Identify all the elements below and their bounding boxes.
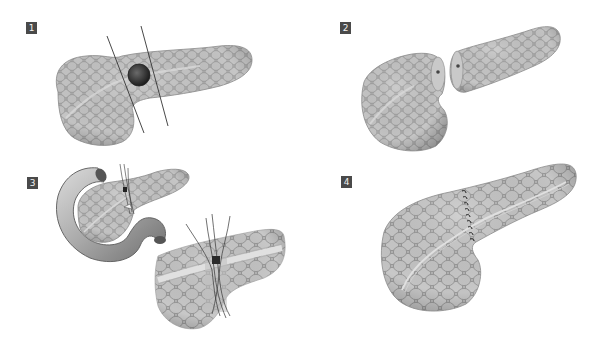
step-badge-1: 1 xyxy=(26,22,37,34)
step-badge-2: 2 xyxy=(340,22,351,34)
tail-duct-opening xyxy=(456,64,460,68)
lesion xyxy=(128,64,150,86)
panel-2-resected-segments xyxy=(362,27,561,151)
magnified-anastomosis-inset xyxy=(155,214,285,329)
inset-stent xyxy=(212,256,220,264)
panel-4-completed-anastomosis xyxy=(381,164,576,311)
illustration-canvas xyxy=(0,0,598,340)
head-cut-surface xyxy=(431,57,445,91)
panel-1-intact-pancreas-with-lesion xyxy=(56,26,252,145)
head-duct-opening xyxy=(436,70,440,74)
tail-cut-surface xyxy=(451,51,463,89)
step-badge-4: 4 xyxy=(341,176,352,188)
step-badge-3: 3 xyxy=(27,177,38,189)
panel-3-anastomosis-with-duodenum xyxy=(56,164,285,329)
